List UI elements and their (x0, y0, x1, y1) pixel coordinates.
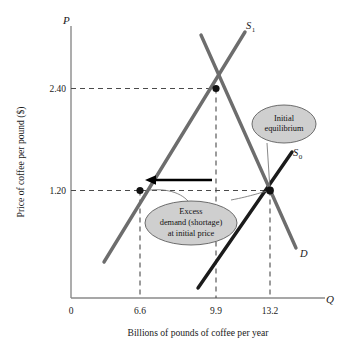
point-new-equilibrium (212, 85, 219, 92)
supply-curve-s0-label: S0 (293, 147, 303, 161)
x-tick-132: 13.2 (262, 306, 279, 316)
initial-equilibrium-line-1: Initial (274, 114, 295, 123)
supply-demand-chart: S1 S0 D Initial equilibrium Excess (0, 0, 342, 348)
excess-demand-line-1: Excess (179, 207, 202, 216)
demand-curve-d-label: D (299, 248, 308, 259)
excess-demand-callout: Excess demand (shortage) at initial pric… (145, 201, 237, 245)
y-axis-symbol: P (62, 14, 70, 26)
initial-equilibrium-line-2: equilibrium (264, 124, 304, 133)
x-axis-caption: Billions of pounds of coffee per year (127, 327, 269, 338)
x-tick-66: 6.6 (134, 306, 146, 316)
y-tick-240: 2.40 (49, 84, 66, 94)
point-shortage-quantity (136, 187, 143, 194)
x-tick-99: 9.9 (210, 306, 222, 316)
supply-curve-s1-label: S1 (246, 20, 256, 34)
point-initial-equilibrium (266, 187, 274, 195)
excess-demand-line-2: demand (shortage) (160, 218, 223, 227)
y-tick-120: 1.20 (49, 186, 66, 196)
initial-equilibrium-callout: Initial equilibrium (252, 105, 316, 143)
x-axis-symbol: Q (326, 293, 334, 305)
curves (104, 32, 296, 288)
excess-demand-line-3: at initial price (168, 229, 215, 238)
x-origin-label: 0 (69, 306, 74, 316)
chart-figure: S1 S0 D Initial equilibrium Excess (0, 0, 342, 348)
shortage-arrow (145, 175, 212, 185)
y-axis-caption: Price of coffee per pound ($) (15, 107, 27, 218)
